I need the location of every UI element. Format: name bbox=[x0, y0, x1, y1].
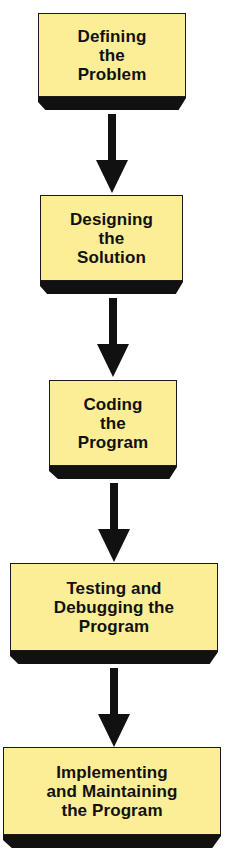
step-defining-the-problem: Defining the Problem bbox=[38, 13, 186, 111]
step-label: Implementing and Maintaining the Program bbox=[47, 763, 178, 820]
step-testing-and-debugging: Testing and Debugging the Program bbox=[10, 563, 218, 665]
step-implementing-and-maintaining: Implementing and Maintaining the Program bbox=[3, 747, 221, 848]
step-label: Designing the Solution bbox=[70, 210, 153, 267]
arrow-down-icon bbox=[97, 483, 131, 563]
step-box-shadow bbox=[10, 650, 218, 664]
step-box-shadow bbox=[3, 834, 221, 848]
arrow-down-icon bbox=[97, 668, 131, 748]
step-box: Implementing and Maintaining the Program bbox=[3, 747, 221, 835]
step-box: Defining the Problem bbox=[38, 13, 186, 97]
arrow-down-icon bbox=[96, 298, 130, 378]
step-designing-the-solution: Designing the Solution bbox=[40, 195, 183, 294]
step-label: Testing and Debugging the Program bbox=[54, 579, 174, 636]
step-box-shadow bbox=[49, 465, 177, 479]
step-label: Coding the Program bbox=[78, 395, 149, 452]
step-box-shadow bbox=[40, 280, 183, 294]
step-label: Defining the Problem bbox=[78, 27, 147, 84]
arrow-down-icon bbox=[95, 114, 129, 194]
step-box: Testing and Debugging the Program bbox=[10, 563, 218, 651]
step-box: Coding the Program bbox=[49, 380, 177, 466]
step-box-shadow bbox=[38, 96, 186, 110]
step-coding-the-program: Coding the Program bbox=[49, 380, 177, 480]
step-box: Designing the Solution bbox=[40, 195, 183, 281]
